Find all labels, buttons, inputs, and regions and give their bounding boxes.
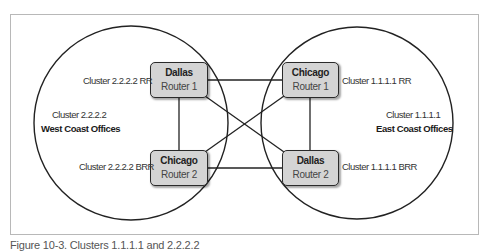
east-rr-label: Cluster 1.1.1.1 RR: [342, 75, 411, 87]
west-cluster-label: Cluster 2.2.2.2: [52, 109, 106, 121]
router-name: Dallas: [283, 154, 338, 168]
west-rr-label: Cluster 2.2.2.2 RR: [83, 75, 152, 87]
router-chicago-1[interactable]: Chicago Router 1: [282, 62, 339, 98]
router-role: Router 1: [283, 80, 338, 94]
east-brr-label: Cluster 1.1.1.1 BRR: [342, 161, 417, 173]
figure-caption: Figure 10-3. Clusters 1.1.1.1 and 2.2.2.…: [10, 239, 199, 251]
router-name: Chicago: [283, 66, 338, 80]
router-role: Router 1: [151, 80, 207, 94]
west-region-label: West Coast Offices: [41, 123, 120, 135]
east-region-label: East Coast Offices: [376, 123, 453, 135]
router-name: Dallas: [151, 66, 207, 80]
router-role: Router 2: [283, 168, 338, 182]
east-cluster-label: Cluster 1.1.1.1: [386, 109, 440, 121]
router-dallas-2[interactable]: Dallas Router 2: [282, 150, 339, 186]
router-chicago-2[interactable]: Chicago Router 2: [150, 150, 208, 186]
router-dallas-1[interactable]: Dallas Router 1: [150, 62, 208, 98]
router-role: Router 2: [151, 168, 207, 182]
router-name: Chicago: [151, 154, 207, 168]
west-brr-label: Cluster 2.2.2.2 BRR: [79, 161, 154, 173]
